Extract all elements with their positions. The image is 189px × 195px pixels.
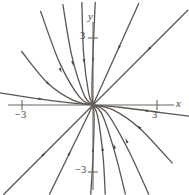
flow-arrow-curve-upper-left-3 xyxy=(58,68,61,73)
flow-arrow-curve-upper-left-4 xyxy=(71,61,73,66)
x-tick-label-positive-three: 3 xyxy=(152,110,157,121)
trajectory-straight-ray-upper-right-inner xyxy=(93,4,139,105)
y-axis-label: y xyxy=(88,11,93,22)
y-tick-label-positive-three: 3 xyxy=(80,31,85,42)
trajectory-curve-lower-right-3 xyxy=(93,105,149,194)
phase-portrait-figure: x y −3 3 3 −3 xyxy=(0,0,189,195)
flow-arrow-straight-ray-upper-right-inner xyxy=(118,45,121,50)
phase-plane-canvas xyxy=(0,0,189,195)
trajectory-curve-lower-right-2 xyxy=(93,105,172,163)
trajectory-curve-upper-left-2 xyxy=(22,51,93,105)
y-tick-label-negative-three: −3 xyxy=(75,165,86,176)
flow-arrow-curve-lower-right-3 xyxy=(125,138,128,143)
x-tick-label-negative-three: −3 xyxy=(15,110,26,121)
trajectory-group xyxy=(0,2,189,194)
trajectory-straight-ray-lower-left-inner xyxy=(50,105,93,194)
flow-arrow-curve-lower-right-4 xyxy=(113,144,116,149)
x-axis-label: x xyxy=(176,98,181,109)
trajectory-straight-ray-upper-right-outer xyxy=(93,10,188,105)
trajectory-curve-upper-left-1 xyxy=(0,93,93,105)
